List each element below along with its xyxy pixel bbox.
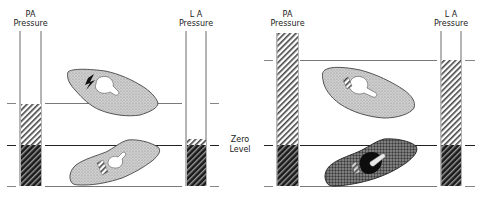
right-panel: PA Pressure L A Pressure (264, 10, 475, 187)
zero-label-1: Zero (231, 135, 250, 144)
pressure-diagram: PA Pressure L A Pressure (0, 0, 480, 201)
right-la-light-hatch (442, 60, 462, 145)
left-la-dark-hatch (187, 145, 206, 186)
left-pa-light-hatch (21, 104, 41, 145)
left-la-column (186, 31, 206, 186)
left-pa-label-2: Pressure (13, 19, 47, 28)
right-upper-lung (322, 67, 414, 118)
left-la-label-2: Pressure (179, 19, 213, 28)
left-pa-column (20, 31, 41, 186)
right-la-label-2: Pressure (434, 19, 468, 28)
left-pa-label-1: PA (26, 10, 36, 19)
left-upper-lung (67, 69, 158, 116)
right-pa-label-1: PA (283, 10, 293, 19)
right-la-label-1: L A (445, 10, 458, 19)
left-panel: PA Pressure L A Pressure (7, 10, 219, 187)
left-lower-lung (70, 140, 160, 185)
zero-level-label: Zero Level (229, 135, 250, 154)
zero-label-2: Level (229, 145, 250, 154)
right-pa-light-hatch (278, 33, 299, 145)
left-pa-dark-hatch (21, 145, 41, 186)
right-pa-label-2: Pressure (270, 19, 304, 28)
right-pa-column (277, 33, 298, 186)
right-la-dark-hatch (442, 145, 462, 186)
left-la-label-1: L A (190, 10, 203, 19)
right-pa-dark-hatch (278, 145, 299, 186)
right-la-column (441, 31, 461, 186)
left-la-light-hatch (187, 139, 206, 145)
